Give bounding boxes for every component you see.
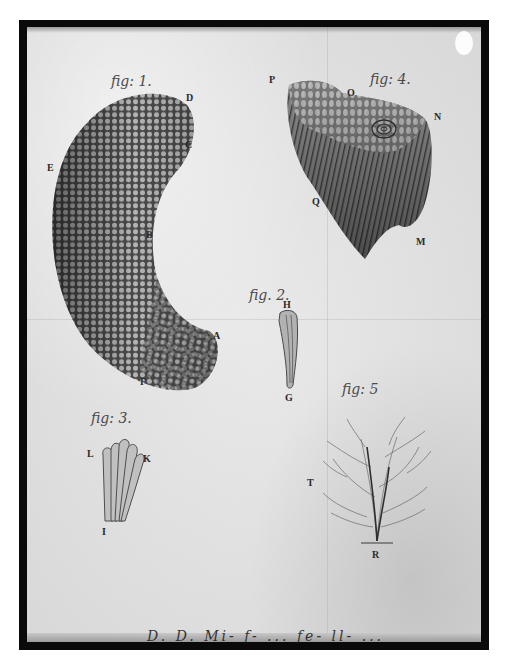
fig5-dendritic-structure	[27, 27, 481, 642]
plate-paper: fig: 1. D C E B A F fig: 4.	[27, 27, 481, 642]
plate-caption: D. D. Mi- f- ... fe- ll- ...	[147, 628, 384, 644]
fig5-letter-t: T	[307, 477, 314, 488]
fig5-letter-r: R	[372, 549, 379, 560]
